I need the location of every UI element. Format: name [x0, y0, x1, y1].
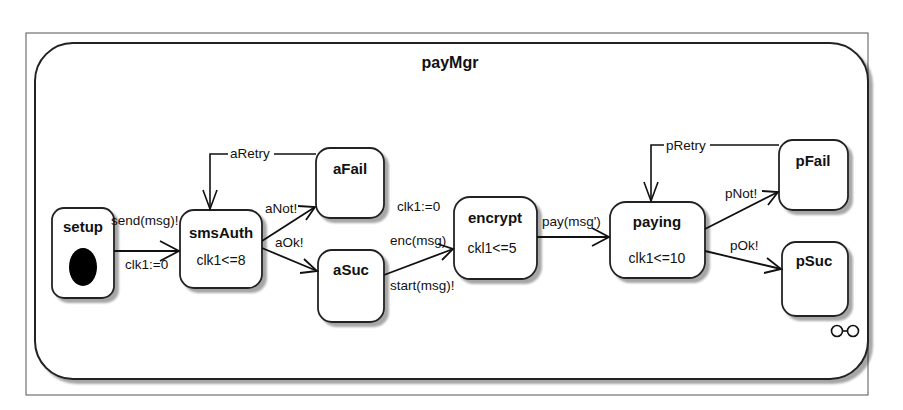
transition-pok-label: pOk! — [730, 238, 759, 253]
state-afail[interactable]: aFail — [316, 148, 384, 218]
state-encrypt[interactable]: encrypt ckl1<=5 — [454, 197, 537, 279]
transition-pnot-label: pNot! — [725, 186, 757, 201]
state-smsauth-invariant: clk1<=8 — [196, 252, 245, 268]
transition-encrypt-sync-in: enc(msg) — [390, 233, 446, 248]
state-smsauth[interactable]: smsAuth clk1<=8 — [180, 210, 262, 288]
state-encrypt-label: encrypt — [468, 209, 522, 226]
transition-encrypt-sync-out: start(msg)! — [390, 278, 455, 293]
state-smsauth-label: smsAuth — [189, 224, 253, 241]
state-paying-invariant: clk1<=10 — [629, 250, 686, 266]
paymgr-container — [35, 43, 868, 379]
transition-aretry-label: aRetry — [230, 146, 270, 161]
state-afail-label: aFail — [333, 160, 367, 177]
diagram-title: payMgr — [422, 54, 479, 71]
transition-aok-label: aOk! — [275, 235, 304, 250]
initial-state-icon — [69, 248, 97, 286]
state-pfail[interactable]: pFail — [779, 140, 848, 210]
state-encrypt-invariant: ckl1<=5 — [467, 240, 516, 256]
transition-anot-label: aNot! — [265, 201, 297, 216]
state-asuc[interactable]: aSuc — [318, 250, 384, 322]
state-pfail-label: pFail — [795, 152, 830, 169]
transition-pretry-label: pRetry — [666, 138, 706, 153]
transition-setup-sync: send(msg)! — [111, 213, 179, 228]
transition-pay-label: pay(msg') — [542, 214, 601, 229]
state-setup-label: setup — [63, 218, 103, 235]
state-paying[interactable]: paying clk1<=10 — [610, 202, 705, 278]
state-psuc-label: pSuc — [796, 252, 833, 269]
transition-setup-update: clk1:=0 — [125, 257, 168, 272]
state-setup[interactable]: setup — [52, 208, 114, 298]
state-paying-label: paying — [633, 213, 681, 230]
state-asuc-label: aSuc — [333, 261, 369, 278]
state-machine-diagram: payMgr setup smsAuth clk1<=8 aFail aSuc … — [0, 0, 903, 410]
state-psuc[interactable]: pSuc — [782, 242, 848, 316]
transition-encrypt-update: clk1:=0 — [397, 199, 440, 214]
